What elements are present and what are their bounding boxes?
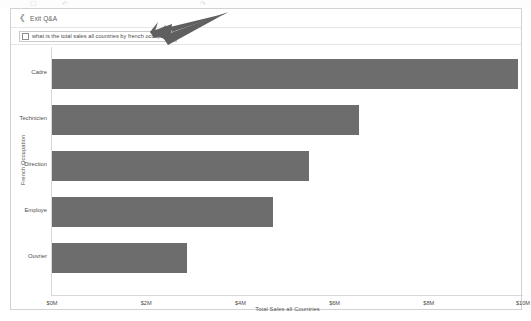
qna-panel: ❮ Exit Q&A what is the total sales all c…: [10, 8, 522, 310]
ribbon-strip: ☐ ↶ ↷: [0, 0, 531, 8]
chevron-left-icon[interactable]: ❮: [19, 14, 26, 22]
bar-direction[interactable]: [52, 151, 309, 181]
x-axis-title: Total Sales all Countries: [52, 306, 523, 312]
x-axis-line: [51, 295, 523, 296]
category-label: Ouvrier: [28, 253, 47, 259]
category-label: Employe: [24, 207, 47, 213]
question-row: what is the total sales all countries by…: [11, 28, 521, 45]
y-axis-title: French Occupation: [20, 125, 26, 195]
exit-qna-label: Exit Q&A: [30, 15, 57, 22]
plot-area: Cadre Technicien Direction Employe Ouvri…: [52, 47, 523, 295]
redo-icon[interactable]: ↷: [200, 0, 206, 8]
bar-employe[interactable]: [52, 197, 273, 227]
category-label: Cadre: [31, 69, 47, 75]
bar-technicien[interactable]: [52, 105, 359, 135]
save-icon[interactable]: ☐: [30, 0, 36, 8]
undo-icon[interactable]: ↶: [62, 0, 68, 8]
question-text: what is the total sales all countries by…: [32, 33, 173, 39]
exit-qna-bar[interactable]: ❮ Exit Q&A: [11, 9, 521, 28]
bar-ouvrier[interactable]: [52, 243, 187, 273]
question-input[interactable]: what is the total sales all countries by…: [19, 31, 177, 42]
document-icon: [22, 33, 29, 40]
bar-cadre[interactable]: [52, 59, 518, 89]
qna-result-chart: French Occupation Cadre Technicien Direc…: [11, 45, 521, 310]
category-label: Technicien: [20, 115, 47, 121]
category-label: Direction: [24, 161, 47, 167]
